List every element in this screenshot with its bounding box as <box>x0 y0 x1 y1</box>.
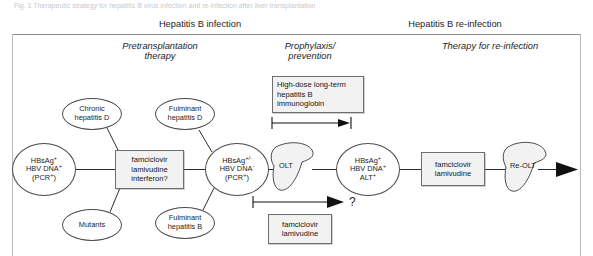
subphase-therapy-for-reinfection: Therapy for re-infection <box>400 41 580 52</box>
node-mutants-label: Mutants <box>79 221 105 230</box>
node-chronic-hepatitis-d: Chronic hepatitis D <box>62 98 122 130</box>
box-prophylaxis-antivirals: famciclovir lamivudine <box>268 214 332 244</box>
node-fulminant-hepatitis-b: Fulminant hepatitis B <box>155 207 215 239</box>
link-fulminant-hepatitis-b <box>203 188 214 210</box>
box-prophylaxis-immunoglobin-line3: immunoglobin <box>277 99 324 108</box>
box-prophylaxis-immunoglobin-line2: hepatitis B <box>277 90 312 99</box>
column-divider-right <box>580 34 581 256</box>
box-reinfection-therapy-line1: famciclovir <box>435 160 471 169</box>
node-fulminant-hepatitis-d-line2: hepatitis D <box>168 114 203 123</box>
phase-header-hepatitis-b-infection: Hepatitis B infection <box>60 19 340 30</box>
box-reinfection-therapy: famciclovir lamivudine <box>421 152 485 186</box>
column-divider-left <box>12 34 13 256</box>
header-divider-rule <box>12 34 581 35</box>
node-mutants: Mutants <box>62 209 122 241</box>
connector-therapy-to-reolt <box>484 169 506 170</box>
box-pretransplant-therapy: famciclovir lamivudine interferon? <box>115 150 184 189</box>
node-status-pretransplant: HBsAg+/- HBV DNA- (PCR+) <box>205 143 269 196</box>
uncertain-outcome-question-mark: ? <box>349 196 356 208</box>
connector-reinfection-to-therapy <box>400 169 422 170</box>
box-pretransplant-therapy-line2: lamivudine <box>131 165 167 174</box>
node-status-pre: HBsAg+ HBV DNA+ (PCR+) <box>12 143 76 196</box>
box-prophylaxis-immunoglobin-line1: High-dose long-term <box>277 80 346 89</box>
node-status-pretransplant-line3: (PCR+) <box>225 174 249 183</box>
node-status-reinfection-line3: ALT+ <box>360 174 376 183</box>
box-prophylaxis-antivirals-line2: lamivudine <box>282 229 318 238</box>
antiviral-duration-arrowhead <box>327 196 344 208</box>
connector-pre-to-therapy <box>75 169 115 170</box>
figure-caption-fragment: Fig. 1 Therapeutic strategy for hepatiti… <box>0 0 593 12</box>
box-reinfection-therapy-line2: lamivudine <box>435 169 471 178</box>
node-status-reinfection: HBsAg+ HBV DNA+ ALT+ <box>336 143 400 196</box>
node-status-pre-line3: (PCR+) <box>32 174 56 183</box>
prophylaxis-duration-bar <box>272 117 351 129</box>
node-re-olt-label: Re-OLT <box>510 161 536 170</box>
box-prophylaxis-immunoglobin: High-dose long-term hepatitis B immunogl… <box>272 76 364 113</box>
box-pretransplant-therapy-line3: interferon? <box>131 174 167 183</box>
connector-olt-to-reinfection <box>312 169 338 170</box>
node-chronic-hepatitis-d-line2: hepatitis D <box>75 114 110 123</box>
subphase-prophylaxis-prevention-line2: prevention <box>255 51 365 62</box>
phase-header-hepatitis-b-reinfection: Hepatitis B re-infection <box>330 19 580 30</box>
node-fulminant-hepatitis-d: Fulminant hepatitis D <box>155 98 215 130</box>
connector-reolt-to-end <box>538 169 558 170</box>
box-pretransplant-therapy-line1: famciclovir <box>132 155 168 164</box>
subphase-pretransplantation-therapy-line2: therapy <box>60 51 260 62</box>
node-olt-label: OLT <box>279 161 293 170</box>
link-fulminant-hepatitis-d <box>199 130 212 152</box>
link-mutants <box>110 188 120 212</box>
figure-canvas: Fig. 1 Therapeutic strategy for hepatiti… <box>0 0 593 256</box>
box-prophylaxis-antivirals-line1: famciclovir <box>282 220 318 229</box>
prophylaxis-duration-arrowhead <box>338 119 350 127</box>
node-fulminant-hepatitis-b-line2: hepatitis B <box>168 223 203 232</box>
antiviral-duration-bar <box>253 196 330 208</box>
link-chronic-hepatitis-d <box>107 128 119 152</box>
outcome-arrow-head <box>556 162 578 177</box>
